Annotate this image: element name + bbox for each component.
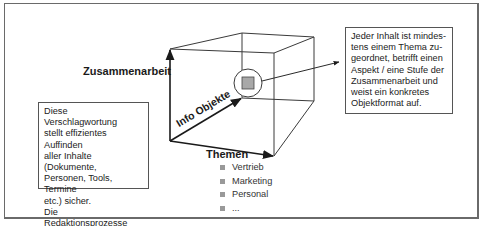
bullet-square-icon xyxy=(220,192,225,197)
info-object-square xyxy=(242,77,254,89)
topic-item: Personal xyxy=(220,188,272,202)
axis-label-themen: Themen xyxy=(206,148,248,160)
topic-item: Marketing xyxy=(220,175,272,189)
topic-list: Vertrieb Marketing Personal ... xyxy=(220,161,272,215)
bullet-square-icon xyxy=(220,165,225,170)
bullet-square-icon xyxy=(220,206,225,211)
bullet-square-icon xyxy=(220,179,225,184)
right-note-box: Jeder Inhalt ist mindes- tens einem Them… xyxy=(345,27,453,114)
topic-item: Vertrieb xyxy=(220,161,272,175)
left-note-box: Diese Verschlagwortung stellt effiziente… xyxy=(38,102,149,189)
topic-item: ... xyxy=(220,202,272,216)
axis-label-zusammenarbeit: Zusammenarbeit xyxy=(83,65,171,77)
